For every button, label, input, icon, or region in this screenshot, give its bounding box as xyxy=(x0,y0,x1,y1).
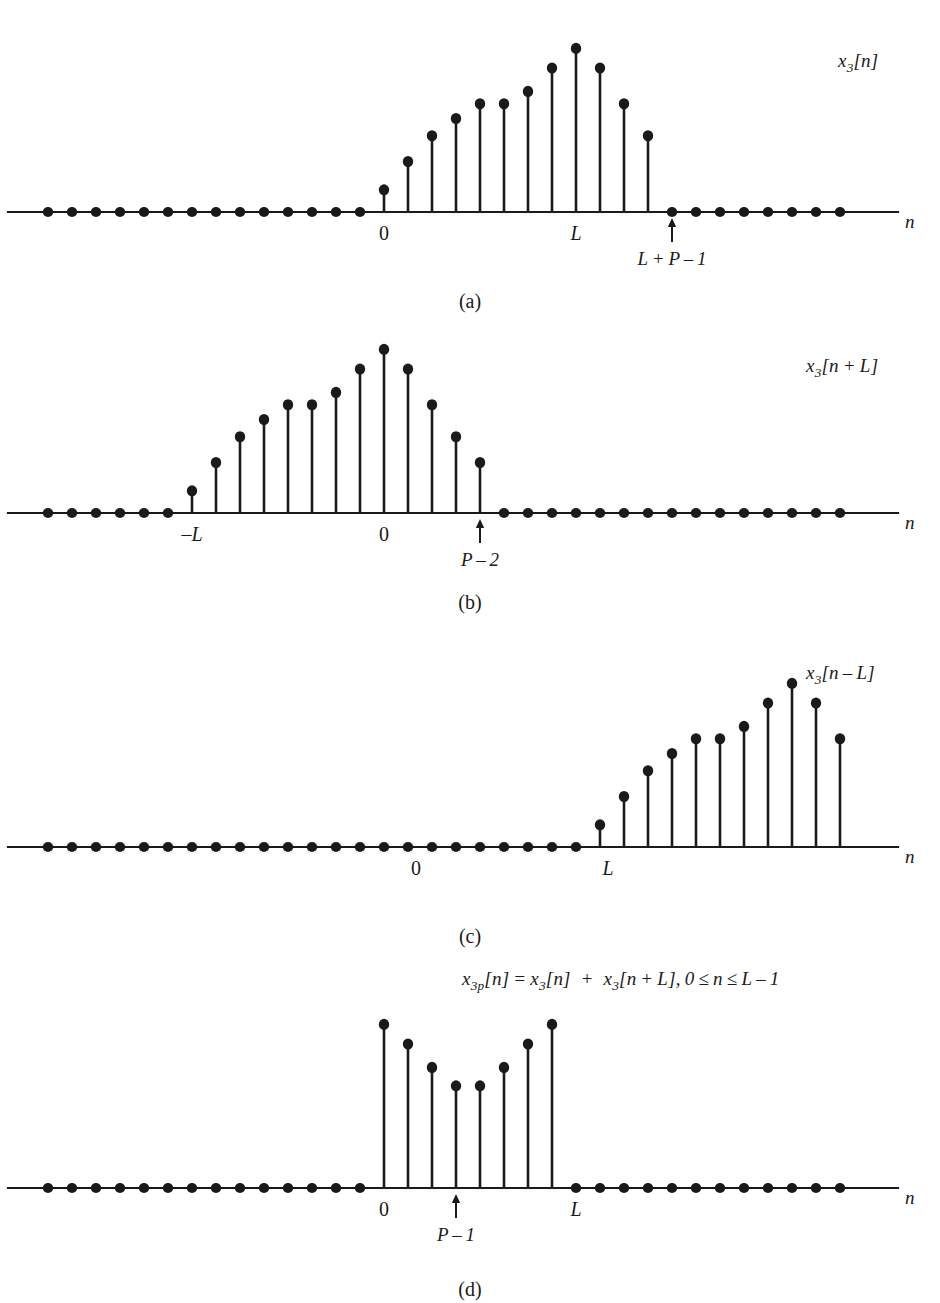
stem-head xyxy=(403,156,413,167)
zero-sample-dot xyxy=(91,508,101,518)
stem-head xyxy=(475,457,485,468)
zero-sample-dot xyxy=(667,207,677,217)
annotation-arrow-head xyxy=(668,218,676,227)
panel-d: x3p[n] = x3[n] + x3[n + L], 0 ≤ n ≤ L – … xyxy=(0,945,940,1303)
zero-sample-dot xyxy=(235,207,245,217)
zero-sample-dot xyxy=(715,207,725,217)
panel-d-arrow-label: P – 1 xyxy=(437,1224,475,1246)
zero-sample-dot xyxy=(235,842,245,852)
zero-sample-dot xyxy=(739,1183,749,1193)
zero-sample-dot xyxy=(667,1183,677,1193)
zero-sample-dot xyxy=(763,508,773,518)
zero-sample-dot xyxy=(163,207,173,217)
panel-b-arrow-label: P – 2 xyxy=(461,549,499,571)
zero-sample-dot xyxy=(91,207,101,217)
stem-head xyxy=(451,1080,461,1091)
zero-sample-dot xyxy=(715,508,725,518)
stem-head xyxy=(571,43,581,54)
stem-head xyxy=(451,113,461,124)
zero-sample-dot xyxy=(43,207,53,217)
panel-a-plot xyxy=(0,0,940,280)
zero-sample-dot xyxy=(163,842,173,852)
zero-sample-dot xyxy=(331,207,341,217)
panel-c-axis-label: n xyxy=(905,846,915,868)
zero-sample-dot xyxy=(139,508,149,518)
zero-sample-dot xyxy=(187,842,197,852)
stem-head xyxy=(379,1019,389,1030)
zero-sample-dot xyxy=(283,207,293,217)
stem-head xyxy=(235,431,245,442)
zero-sample-dot xyxy=(91,842,101,852)
panel-a-tick-L: L xyxy=(570,222,581,245)
panel-a-axis-label: n xyxy=(905,211,915,233)
stem-head xyxy=(523,1038,533,1049)
panel-b-axis-label: n xyxy=(905,512,915,534)
zero-sample-dot xyxy=(403,842,413,852)
zero-sample-dot xyxy=(595,1183,605,1193)
zero-sample-dot xyxy=(691,207,701,217)
annotation-arrow-head xyxy=(476,519,484,528)
stem-head xyxy=(283,399,293,410)
panel-d-signal-label: x3p[n] = x3[n] + x3[n + L], 0 ≤ n ≤ L – … xyxy=(462,968,780,994)
panel-b-caption: (b) xyxy=(0,591,940,614)
stem-plot-figure: x3[n] n 0 L L + P – 1 (a) x3[n + L] n –L… xyxy=(0,0,940,1303)
zero-sample-dot xyxy=(691,1183,701,1193)
zero-sample-dot xyxy=(187,1183,197,1193)
zero-sample-dot xyxy=(139,842,149,852)
zero-sample-dot xyxy=(187,207,197,217)
zero-sample-dot xyxy=(619,1183,629,1193)
stem-head xyxy=(307,399,317,410)
zero-sample-dot xyxy=(835,508,845,518)
stem-head xyxy=(619,98,629,109)
zero-sample-dot xyxy=(43,1183,53,1193)
stem-head xyxy=(643,765,653,776)
zero-sample-dot xyxy=(115,207,125,217)
zero-sample-dot xyxy=(763,207,773,217)
panel-b-signal-label: x3[n + L] xyxy=(806,355,878,381)
panel-d-tick-L: L xyxy=(570,1198,581,1221)
zero-sample-dot xyxy=(619,508,629,518)
zero-sample-dot xyxy=(115,842,125,852)
zero-sample-dot xyxy=(571,508,581,518)
zero-sample-dot xyxy=(571,1183,581,1193)
stem-head xyxy=(739,721,749,732)
zero-sample-dot xyxy=(91,1183,101,1193)
zero-sample-dot xyxy=(259,842,269,852)
stem-head xyxy=(643,130,653,141)
zero-sample-dot xyxy=(355,1183,365,1193)
zero-sample-dot xyxy=(163,508,173,518)
stem-head xyxy=(595,62,605,73)
zero-sample-dot xyxy=(43,508,53,518)
stem-head xyxy=(547,62,557,73)
stem-head xyxy=(379,184,389,195)
panel-b-plot xyxy=(0,310,940,590)
zero-sample-dot xyxy=(139,207,149,217)
stem-head xyxy=(547,1019,557,1030)
zero-sample-dot xyxy=(355,842,365,852)
zero-sample-dot xyxy=(139,1183,149,1193)
zero-sample-dot xyxy=(811,207,821,217)
stem-head xyxy=(499,98,509,109)
zero-sample-dot xyxy=(739,207,749,217)
panel-c-plot xyxy=(0,640,940,920)
zero-sample-dot xyxy=(67,842,77,852)
stem-head xyxy=(787,678,797,689)
panel-a-arrow-label: L + P – 1 xyxy=(637,248,706,270)
zero-sample-dot xyxy=(475,842,485,852)
stem-head xyxy=(427,130,437,141)
zero-sample-dot xyxy=(451,842,461,852)
zero-sample-dot xyxy=(43,842,53,852)
zero-sample-dot xyxy=(115,508,125,518)
zero-sample-dot xyxy=(739,508,749,518)
stem-head xyxy=(523,86,533,97)
stem-head xyxy=(427,1062,437,1073)
zero-sample-dot xyxy=(787,1183,797,1193)
panel-c: x3[n – L] n 0 L (c) xyxy=(0,640,940,960)
zero-sample-dot xyxy=(211,207,221,217)
panel-b: x3[n + L] n –L 0 P – 2 (b) xyxy=(0,310,940,630)
stem-head xyxy=(403,1038,413,1049)
zero-sample-dot xyxy=(307,1183,317,1193)
zero-sample-dot xyxy=(283,1183,293,1193)
zero-sample-dot xyxy=(67,1183,77,1193)
stem-head xyxy=(451,431,461,442)
